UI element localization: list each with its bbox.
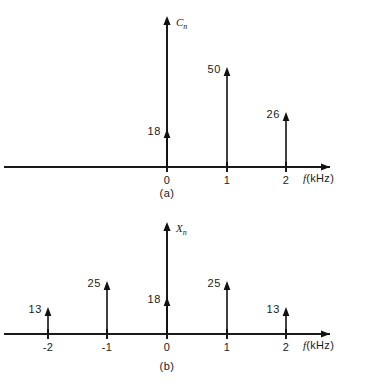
impulse-value-b-m2: 13 [29, 303, 42, 315]
x-tick-label-a-1: 1 [224, 174, 231, 186]
impulse-arrow-b-m1 [104, 281, 111, 290]
figure-container: Cn 0 1 2 f(kHz) 18 50 [0, 0, 365, 383]
caption-b: (b) [159, 360, 174, 372]
y-axis-arrow-a [163, 16, 170, 25]
x-tick-label-b-0: 0 [164, 341, 171, 353]
impulse-arrow-b-0 [164, 297, 171, 306]
x-tick-label-b-1: 1 [224, 341, 231, 353]
chart-a-svg: Cn 0 1 2 f(kHz) 18 50 [0, 0, 365, 200]
x-axis-unit-b-rest: (kHz) [306, 339, 334, 351]
impulse-b-m2: 13 [29, 303, 52, 334]
y-axis-title-a-sub: n [183, 22, 187, 31]
impulse-b-m1: 25 [88, 277, 111, 334]
impulse-value-b-1: 25 [208, 277, 221, 289]
chart-panel-a: Cn 0 1 2 f(kHz) 18 50 [0, 0, 365, 200]
x-axis-arrow-b [321, 331, 330, 338]
impulse-value-a-0: 18 [148, 125, 161, 137]
chart-panel-b: Xn -2 -1 0 1 2 f(kHz) 13 [0, 200, 365, 383]
impulse-value-b-0: 18 [148, 293, 161, 305]
x-tick-label-b-m1: -1 [102, 341, 113, 353]
x-tick-label-a-2: 2 [283, 174, 290, 186]
x-tick-label-b-m2: -2 [43, 341, 54, 353]
impulse-arrow-a-1 [224, 67, 231, 76]
impulse-b-1: 25 [208, 277, 231, 334]
impulse-value-a-1: 50 [208, 63, 221, 75]
chart-b-svg: Xn -2 -1 0 1 2 f(kHz) 13 [0, 200, 365, 383]
impulse-value-a-2: 26 [267, 108, 280, 120]
impulse-b-0: 18 [148, 293, 171, 334]
x-axis-arrow-a [321, 164, 330, 171]
x-axis-unit-b: f(kHz) [303, 339, 334, 351]
impulse-b-2: 13 [267, 303, 290, 334]
y-axis-title-a: Cn [176, 16, 187, 31]
caption-a: (a) [159, 187, 174, 199]
impulse-arrow-a-0 [164, 129, 171, 138]
impulse-a-0: 18 [148, 125, 171, 167]
x-axis-unit-a-rest: (kHz) [306, 172, 334, 184]
impulse-a-2: 26 [267, 108, 290, 167]
y-axis-title-b: Xn [175, 222, 187, 237]
y-axis-title-b-sub: n [183, 228, 187, 237]
impulse-arrow-b-m2 [45, 307, 52, 316]
y-axis-arrow-b [163, 222, 170, 231]
impulse-arrow-b-1 [224, 281, 231, 290]
x-tick-label-a-0: 0 [164, 174, 171, 186]
x-axis-unit-a: f(kHz) [303, 172, 334, 184]
impulse-value-b-2: 13 [267, 303, 280, 315]
impulse-arrow-a-2 [283, 112, 290, 121]
impulse-arrow-b-2 [283, 307, 290, 316]
x-tick-label-b-2: 2 [283, 341, 290, 353]
impulse-value-b-m1: 25 [88, 277, 101, 289]
impulse-a-1: 50 [208, 63, 231, 167]
